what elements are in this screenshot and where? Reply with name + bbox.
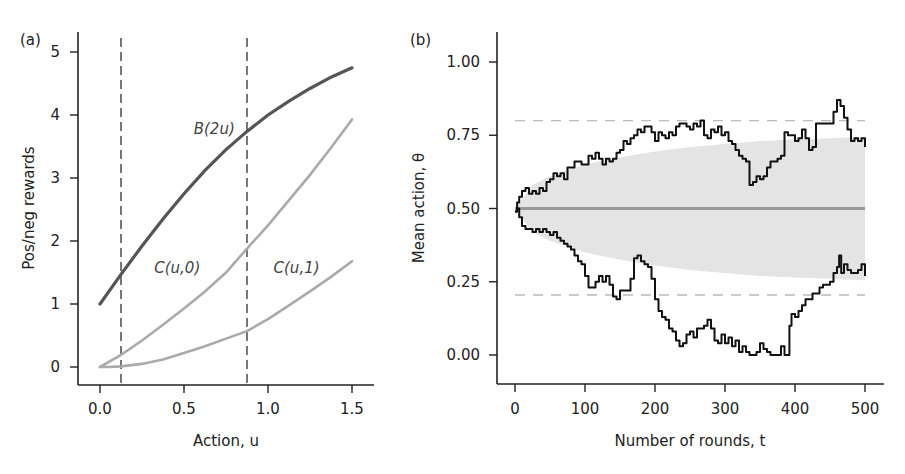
y-tick-label: 1 (50, 295, 60, 313)
curve-label: B(2u) (194, 120, 235, 138)
panel-a-curves (100, 68, 352, 367)
y-tick-label: 0.00 (447, 346, 480, 364)
panel-a-reward-curves: (a) 0.00.51.01.5012345 B(2u)C(u,0)C(u,1)… (20, 31, 374, 450)
y-tick-label: 5 (50, 43, 60, 61)
panel-b-y-axis-label: Mean action, θ (410, 153, 428, 264)
panel-a-ticks: 0.00.51.01.5012345 (50, 43, 363, 418)
x-tick-label: 400 (781, 400, 810, 418)
y-tick-label: 0 (50, 358, 60, 376)
y-tick-label: 3 (50, 169, 60, 187)
x-tick-label: 1.0 (256, 400, 280, 418)
panel-a-y-axis-label: Pos/neg rewards (20, 146, 38, 270)
curve-label: C(u,1) (274, 259, 320, 277)
y-tick-label: 4 (50, 106, 60, 124)
x-tick-label: 0.0 (88, 400, 112, 418)
x-tick-label: 300 (711, 400, 740, 418)
y-tick-label: 2 (50, 232, 60, 250)
panel-a-label: (a) (20, 31, 41, 49)
x-tick-label: 0 (510, 400, 520, 418)
curve-label: C(u,0) (154, 259, 200, 277)
x-tick-label: 0.5 (172, 400, 196, 418)
panel-b-mean-action: (b) 01002003004005000.000.250.500.751.00… (410, 31, 884, 450)
y-tick-label: 1.00 (447, 53, 480, 71)
y-tick-label: 0.25 (447, 273, 480, 291)
figure: (a) 0.00.51.01.5012345 B(2u)C(u,0)C(u,1)… (0, 0, 905, 474)
x-tick-label: 1.5 (340, 400, 364, 418)
curve-c-u-1- (100, 261, 352, 367)
y-tick-label: 0.75 (447, 126, 480, 144)
x-tick-label: 500 (851, 400, 880, 418)
y-tick-label: 0.50 (447, 200, 480, 218)
x-tick-label: 200 (641, 400, 670, 418)
curve-c-u-0- (100, 119, 352, 367)
x-tick-label: 100 (571, 400, 600, 418)
panel-a-x-axis-label: Action, u (193, 432, 259, 450)
panel-b-label: (b) (410, 31, 431, 49)
panel-a-dashed-guides (121, 38, 247, 385)
panel-b-x-axis-label: Number of rounds, t (614, 432, 765, 450)
